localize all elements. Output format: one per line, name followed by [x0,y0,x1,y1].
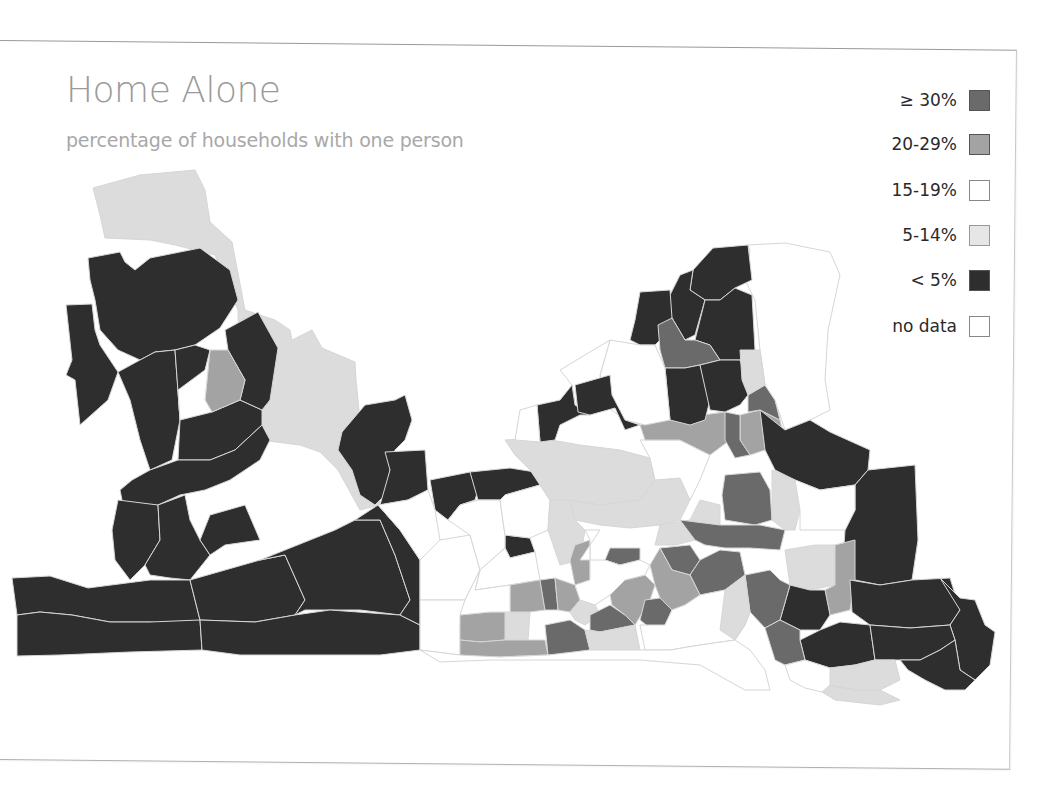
district-w-1[interactable] [88,248,238,360]
district-s-mid-1[interactable] [460,612,510,642]
district-s-mid-3[interactable] [510,580,545,612]
district-c-dark-3[interactable] [722,472,772,525]
district-c-white-4[interactable] [420,600,465,655]
district-s-ge30-2[interactable] [545,620,590,655]
district-c-dark-4[interactable] [680,520,785,550]
district-w-3[interactable] [118,350,180,470]
district-sw-strip-3[interactable] [190,555,305,622]
district-ne-white-4[interactable] [515,405,540,442]
district-w-8[interactable] [200,505,260,555]
district-se-dark-1[interactable] [850,578,960,628]
choropleth-map [0,0,1056,798]
district-s-light-1[interactable] [505,610,530,640]
